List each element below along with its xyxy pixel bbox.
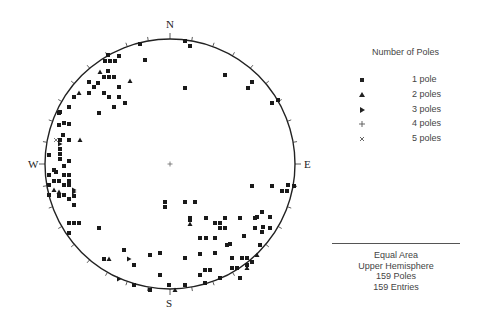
east-label: E (304, 158, 311, 170)
pole-square-icon (123, 101, 127, 105)
pole-square-icon (77, 221, 81, 225)
pole-square-icon (92, 85, 96, 89)
pole-square-icon (203, 281, 207, 285)
pole-square-icon (255, 215, 259, 219)
pole-square-icon (240, 256, 244, 260)
pole-square-icon (188, 44, 192, 48)
pole-square-icon (72, 221, 76, 225)
pole-square-icon (72, 194, 76, 198)
pole-square-icon (213, 251, 217, 255)
pole-cross-icon (54, 138, 58, 142)
pole-square-icon (230, 266, 234, 270)
pole-square-icon (67, 138, 71, 142)
pole-triangle-up-icon (52, 188, 57, 193)
pole-square-icon (250, 80, 254, 84)
pole-square-icon (97, 226, 101, 230)
pole-square-icon (218, 226, 222, 230)
pole-square-icon (67, 183, 71, 187)
pole-square-icon (218, 276, 222, 280)
pole-square-icon (57, 179, 61, 183)
projection-type: Equal Area (332, 250, 460, 261)
pole-square-icon (250, 260, 254, 264)
pole-square-icon (188, 218, 192, 222)
pole-triangle-up-icon (128, 79, 133, 84)
projection-info: Equal Area Upper Hemisphere 159 Poles 15… (332, 243, 460, 292)
pole-square-icon (235, 266, 239, 270)
pole-square-icon (198, 252, 202, 256)
pole-square-icon (96, 81, 100, 85)
legend-item-3-poles: 3 poles (340, 104, 470, 116)
pole-square-icon (198, 273, 202, 277)
pole-square-icon (230, 256, 234, 260)
pole-square-icon (163, 205, 167, 209)
pole-square-icon (280, 189, 284, 193)
pole-square-icon (138, 42, 142, 46)
pole-square-icon (62, 183, 66, 187)
legend-item-2-poles: 2 poles (340, 89, 470, 101)
pole-square-icon (167, 283, 171, 287)
pole-square-icon (108, 59, 112, 63)
pole-square-icon (183, 256, 187, 260)
pole-square-icon (143, 58, 147, 62)
divider (332, 243, 460, 244)
pole-square-icon (87, 80, 91, 84)
pole-square-icon (268, 215, 272, 219)
pole-triangle-right-icon (127, 257, 132, 262)
pole-square-icon (270, 184, 274, 188)
pole-square-icon (261, 225, 265, 229)
pole-markers (47, 39, 296, 292)
pole-square-icon (132, 283, 136, 287)
pole-square-icon (148, 288, 152, 292)
pole-square-icon (260, 230, 264, 234)
pole-square-icon (58, 110, 62, 114)
pole-square-icon (67, 173, 71, 177)
pole-square-icon (117, 54, 121, 58)
pole-square-icon (47, 183, 51, 187)
square-icon (357, 74, 367, 86)
pole-square-icon (97, 111, 101, 115)
pole-square-icon (250, 184, 254, 188)
pole-square-icon (67, 221, 71, 225)
pole-square-icon (285, 189, 289, 193)
pole-square-icon (183, 86, 187, 90)
pole-triangle-right-icon (117, 277, 122, 282)
pole-square-icon (122, 248, 126, 252)
pole-square-icon (62, 173, 66, 177)
pole-square-icon (208, 268, 212, 272)
pole-square-icon (183, 39, 187, 43)
entry-count: 159 Entries (332, 282, 460, 293)
pole-square-icon (198, 236, 202, 240)
pole-square-icon (72, 95, 76, 99)
triangle-up-icon (357, 89, 367, 101)
pole-square-icon (204, 236, 208, 240)
pole-square-icon (268, 226, 272, 230)
pole-square-icon (117, 95, 121, 99)
pole-square-icon (58, 138, 62, 142)
legend-item-5-poles: 5 poles (340, 133, 470, 145)
pole-square-icon (223, 73, 227, 77)
cross-icon (357, 133, 367, 145)
pole-square-icon (58, 152, 62, 156)
pole-square-icon (67, 122, 71, 126)
pole-square-icon (193, 200, 197, 204)
pole-square-icon (102, 91, 106, 95)
pole-triangle-right-icon (58, 142, 63, 147)
pole-square-icon (276, 98, 280, 102)
pole-triangle-up-icon (78, 138, 83, 143)
hemisphere: Upper Hemisphere (332, 261, 460, 272)
triangle-right-icon (357, 104, 367, 116)
pole-square-icon (113, 59, 117, 63)
pole-square-icon (107, 95, 111, 99)
pole-square-icon (87, 91, 91, 95)
pole-square-icon (218, 221, 222, 225)
pole-triangle-up-icon (188, 222, 193, 227)
pole-square-icon (203, 268, 207, 272)
pole-square-icon (117, 85, 121, 89)
pole-square-icon (67, 159, 71, 163)
pole-square-icon (72, 203, 76, 207)
pole-square-icon (62, 164, 66, 168)
pole-square-icon (158, 273, 162, 277)
plus-icon (357, 118, 367, 130)
west-label: W (28, 158, 39, 170)
pole-square-icon (260, 210, 264, 214)
